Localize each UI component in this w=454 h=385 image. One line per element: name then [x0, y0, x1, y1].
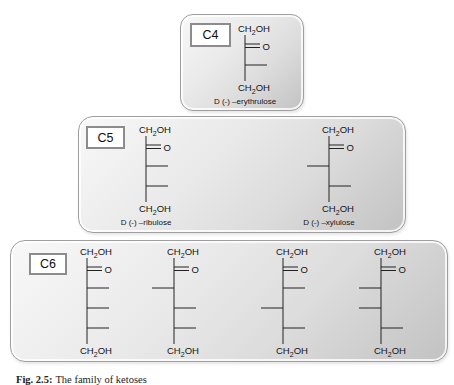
svg-text:CH2OH: CH2OH: [374, 246, 406, 259]
fischer-projection-erythrulose: CH2OHOCH2OHD (-) –erythrulose: [203, 22, 307, 112]
figure-caption: Fig. 2.5:The family of ketoses: [16, 374, 147, 385]
svg-text:CH2OH: CH2OH: [276, 345, 308, 358]
svg-text:CH2OH: CH2OH: [80, 345, 112, 358]
svg-text:CH2OH: CH2OH: [238, 82, 270, 95]
svg-text:CH2OH: CH2OH: [139, 203, 171, 216]
svg-text:O: O: [301, 264, 308, 275]
svg-text:O: O: [399, 264, 406, 275]
svg-text:O: O: [192, 264, 199, 275]
fischer-projection-ribulose: CH2OHOCH2OHD (-) –ribulose: [104, 123, 208, 233]
fischer-projection-c6-ketose-3: CH2OHOCH2OH: [241, 245, 345, 363]
svg-text:O: O: [263, 41, 270, 52]
svg-text:CH2OH: CH2OH: [374, 345, 406, 358]
svg-text:CH2OH: CH2OH: [167, 345, 199, 358]
panel-c6-ketoses: C6 CH2OHOCH2OH CH2OHOCH2OH CH2OHOCH2OH C…: [10, 240, 448, 362]
panel-c4-ketoses: C4 CH2OHOCH2OHD (-) –erythrulose: [180, 14, 304, 111]
svg-text:CH2OH: CH2OH: [80, 246, 112, 259]
svg-text:D (-) –erythrulose: D (-) –erythrulose: [214, 97, 277, 106]
svg-text:CH2OH: CH2OH: [276, 246, 308, 259]
svg-text:D (-) –xylulose: D (-) –xylulose: [303, 218, 355, 227]
svg-text:CH2OH: CH2OH: [322, 203, 354, 216]
panel-c5-ketoses: C5 CH2OHOCH2OHD (-) –ribulose CH2OHOCH2O…: [78, 116, 406, 233]
fischer-projection-c6-ketose-4: CH2OHOCH2OH: [339, 245, 443, 363]
fischer-projection-c6-ketose-2: CH2OHOCH2OH: [132, 245, 236, 363]
svg-text:O: O: [105, 264, 112, 275]
figure-canvas: { "caption": { "label": "Fig. 2.5:", "te…: [0, 0, 454, 385]
figure-caption-text: The family of ketoses: [55, 374, 146, 385]
svg-text:CH2OH: CH2OH: [322, 124, 354, 137]
svg-text:CH2OH: CH2OH: [167, 246, 199, 259]
svg-text:O: O: [347, 142, 354, 153]
svg-text:CH2OH: CH2OH: [139, 124, 171, 137]
figure-caption-number: Fig. 2.5:: [16, 374, 52, 385]
svg-text:CH2OH: CH2OH: [238, 23, 270, 36]
svg-text:D (-) –ribulose: D (-) –ribulose: [121, 218, 172, 227]
svg-text:O: O: [164, 142, 171, 153]
fischer-projection-xylulose: CH2OHOCH2OHD (-) –xylulose: [287, 123, 391, 233]
